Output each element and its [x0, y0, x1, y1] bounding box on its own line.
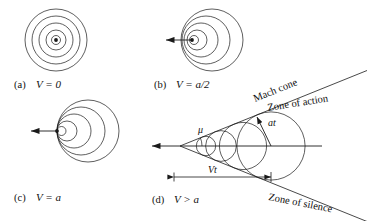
panel-c-caption: (c) V = a — [14, 191, 61, 204]
panel-c-caption-prefix: (c) — [14, 192, 26, 204]
panel-d-caption: (d) V > a — [152, 193, 199, 206]
panel-d-mach-angle-arc — [200, 138, 202, 146]
panel-a-caption: (a) V = 0 — [14, 78, 61, 91]
panel-a-caption-prefix: (a) — [14, 79, 26, 91]
panel-b-caption-prefix: (b) — [154, 79, 167, 91]
panel-a-caption-value: V = 0 — [36, 78, 61, 90]
panel-c-caption-value: V = a — [36, 191, 61, 203]
panel-d-mach-angle-label: μ — [197, 124, 203, 135]
panel-d-mach-line-lower — [180, 146, 367, 221]
panel-d-at-label: at — [268, 117, 276, 128]
panel-b-caption-value: V = a/2 — [176, 78, 210, 90]
panel-d-caption-prefix: (d) — [152, 194, 165, 206]
panel-c-wavefronts — [57, 100, 119, 162]
panel-d-vt-label: Vt — [208, 164, 217, 175]
panel-a-source-dot — [54, 38, 58, 42]
panel-b-caption: (b) V = a/2 — [154, 78, 210, 91]
figure-canvas: (a) V = 0 (b) V = a/2 (c) V = a (d) V > … — [0, 0, 367, 221]
mach-cone-figure: (a) V = 0 (b) V = a/2 (c) V = a (d) V > … — [0, 0, 367, 221]
panel-d-caption-value: V > a — [174, 193, 199, 205]
